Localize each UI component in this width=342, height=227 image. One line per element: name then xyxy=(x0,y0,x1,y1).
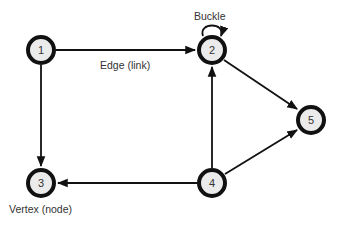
node-4-label: 4 xyxy=(209,177,215,189)
node-1: 1 xyxy=(28,37,54,63)
edge-annotation: Edge (link) xyxy=(100,59,150,71)
node-3: 3 xyxy=(28,170,54,196)
node-2: 2 xyxy=(199,37,225,63)
node-5-label: 5 xyxy=(308,114,314,126)
edge-4-5 xyxy=(225,130,297,174)
node-3-label: 3 xyxy=(38,177,44,189)
graph-diagram: 1 2 3 4 5 Edge (link) Buckle Vertex (nod… xyxy=(0,0,342,227)
node-2-label: 2 xyxy=(209,44,215,56)
node-1-label: 1 xyxy=(38,44,44,56)
node-5: 5 xyxy=(298,107,324,133)
loop-annotation: Buckle xyxy=(194,10,226,22)
vertex-annotation: Vertex (node) xyxy=(9,203,72,215)
edge-2-2-loop xyxy=(202,26,221,37)
edge-2-5 xyxy=(224,60,297,109)
node-4: 4 xyxy=(199,170,225,196)
